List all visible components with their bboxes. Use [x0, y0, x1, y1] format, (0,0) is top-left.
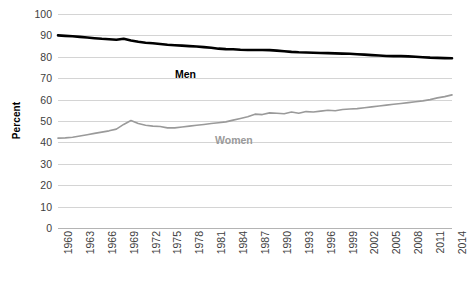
- y-tick-label: 10: [40, 201, 52, 213]
- x-axis-tick-labels: 1960196319661969197219751978198119841987…: [58, 231, 452, 283]
- y-tick-label: 60: [40, 94, 52, 106]
- x-tick-label: 2002: [368, 231, 380, 254]
- y-axis-title-text: Percent: [12, 101, 23, 138]
- x-tick-label: 1993: [303, 231, 315, 254]
- x-tick-label: 1984: [237, 231, 249, 254]
- y-axis-tick-labels: 1009080706050403020100: [26, 14, 56, 228]
- x-tick-label: 2011: [434, 231, 446, 254]
- series-label-men: Men: [175, 68, 196, 80]
- series-label-women: Women: [215, 134, 253, 146]
- y-tick-label: 90: [40, 29, 52, 41]
- x-tick-label: 1975: [171, 231, 183, 254]
- x-tick-label: 2008: [412, 231, 424, 254]
- x-tick-label: 1987: [259, 231, 271, 254]
- y-tick-label: 50: [40, 115, 52, 127]
- y-tick-label: 40: [40, 136, 52, 148]
- x-tick-label: 1978: [193, 231, 205, 254]
- y-tick-label: 80: [40, 51, 52, 63]
- series-line-women: [58, 95, 452, 138]
- y-tick-label: 0: [46, 222, 52, 234]
- series-line-men: [58, 35, 452, 58]
- y-tick-label: 20: [40, 179, 52, 191]
- y-tick-label: 70: [40, 72, 52, 84]
- x-tick-label: 1963: [84, 231, 96, 254]
- x-tick-label: 2014: [456, 231, 468, 254]
- x-tick-label: 1990: [281, 231, 293, 254]
- x-tick-label: 1972: [150, 231, 162, 254]
- gridline: [58, 228, 452, 229]
- plot-area: Men Women: [58, 14, 452, 228]
- x-tick-label: 1999: [347, 231, 359, 254]
- y-tick-label: 30: [40, 158, 52, 170]
- x-tick-label: 1960: [62, 231, 74, 254]
- x-tick-label: 1966: [106, 231, 118, 254]
- x-tick-label: 1996: [325, 231, 337, 254]
- chart-container: Percent 1009080706050403020100 Men Women…: [0, 0, 474, 283]
- series-layer: [58, 14, 452, 228]
- y-tick-label: 100: [34, 8, 52, 20]
- x-tick-label: 1969: [128, 231, 140, 254]
- x-tick-label: 2005: [390, 231, 402, 254]
- x-tick-label: 1981: [215, 231, 227, 254]
